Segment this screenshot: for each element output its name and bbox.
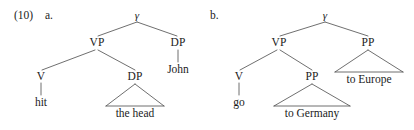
tree-b-branch-vp xyxy=(240,50,312,70)
tree-b-terminal-inner-pp-phrase: to Germany xyxy=(285,108,340,120)
tree-a-branch-vp xyxy=(42,50,135,70)
tree-b-node-v: V xyxy=(235,71,244,83)
tree-a-terminal-object-phrase: the head xyxy=(116,108,155,120)
tree-b-terminal-verb: go xyxy=(233,97,245,109)
tree-b-node-pp-inner: PP xyxy=(305,71,318,83)
tree-b-triangle-to-germany xyxy=(274,84,350,106)
tree-b-node-pp-outer: PP xyxy=(361,37,374,49)
tree-a-node-dp-object: DP xyxy=(127,71,142,83)
tree-b-terminal-outer-pp-phrase: to Europe xyxy=(346,74,391,86)
tree-lines xyxy=(0,0,414,130)
syntax-tree-figure: (10) a. b. γ VP DP V DP hit John the hea… xyxy=(0,0,414,130)
tree-a-node-root: γ xyxy=(135,10,139,21)
tree-a-triangle-the-head xyxy=(106,84,164,106)
tree-a-terminal-verb: hit xyxy=(35,97,47,109)
tree-b-branch-root xyxy=(280,22,368,36)
tree-a-node-vp: VP xyxy=(89,37,104,49)
tree-a-node-dp-subject: DP xyxy=(170,37,185,49)
tree-b-triangle-to-europe xyxy=(335,50,403,72)
tree-b-node-root: γ xyxy=(323,10,327,21)
tree-a-terminal-subject: John xyxy=(167,64,189,76)
example-number: (10) xyxy=(14,10,33,22)
tree-b-letter: b. xyxy=(210,10,219,22)
tree-a-branch-root xyxy=(98,22,177,36)
tree-b-node-vp: VP xyxy=(271,37,286,49)
tree-a-node-v: V xyxy=(37,71,46,83)
tree-a-letter: a. xyxy=(45,10,53,22)
